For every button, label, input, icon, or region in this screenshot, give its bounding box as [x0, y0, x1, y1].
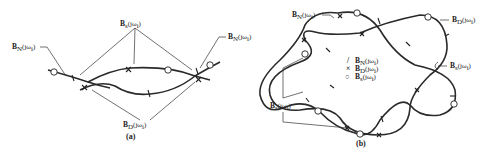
bn-marker: [330, 85, 334, 88]
legend-symbol-circle-icon: ○: [345, 72, 350, 81]
leader-bd-left: [92, 90, 140, 120]
panel-b: BN(jωi) BD(jωi) Bs(jωi) Bs(jωi) / BN(jωi…: [260, 10, 476, 148]
label-bd-right: BD(jωi): [452, 15, 476, 26]
bs-marker: [51, 69, 57, 75]
bs-marker: [165, 67, 171, 73]
bs-marker: [207, 62, 213, 68]
bd-marker: [338, 14, 342, 18]
leader-bs-top-right: [135, 28, 192, 70]
diagram-canvas: BN(jωi) Bs(jωi) BN(jωi) BD(jωi) (a): [0, 0, 492, 152]
bs-marker: [354, 10, 360, 16]
leader-bs-top-center: [134, 28, 135, 64]
caption-a: (a): [126, 132, 136, 141]
bn-marker: [326, 48, 330, 52]
bs-marker: [357, 131, 363, 137]
bn-marker: [378, 18, 380, 24]
label-bn-top: BN(jωi): [292, 10, 316, 21]
label-bs-top: Bs(jωi): [120, 19, 142, 30]
bs-marker: [451, 101, 457, 107]
leader-bd-right: [150, 82, 195, 120]
bs-marker: [302, 51, 308, 57]
boundary-curve-lower: [80, 62, 220, 94]
label-bn-right: BN(jωi): [228, 32, 252, 43]
label-bn-left: BN(jωi): [12, 42, 36, 53]
legend-item-bn: / BN(jωi): [346, 56, 379, 67]
label-bs-right: Bs(jωi): [450, 61, 472, 72]
bs-marker: [315, 108, 321, 114]
legend-label-bs: Bs(jωi): [355, 72, 377, 83]
legend: / BN(jωi) × BD(jωi) ○ Bs(jωi): [345, 56, 379, 83]
leader-bn-top: [322, 15, 334, 18]
label-bd-bottom: BD(jωi): [123, 120, 147, 131]
bn-marker: [406, 42, 410, 46]
bs-marker: [425, 14, 431, 20]
panel-a: BN(jωi) Bs(jωi) BN(jωi) BD(jωi) (a): [12, 19, 252, 141]
caption-b: (b): [356, 139, 366, 148]
bn-marker: [306, 98, 309, 102]
bn-marker: [196, 68, 198, 74]
